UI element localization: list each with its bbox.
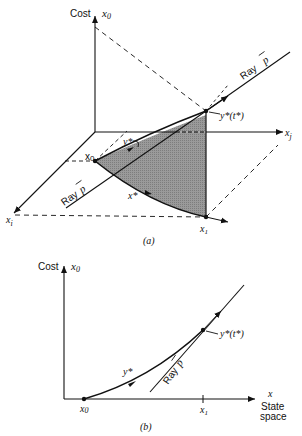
ray-arrow-a [206,96,228,111]
figure-b: Cost x0 x State space x0 x1 y* y*(t*) Ra… [38,260,287,433]
optimal-trajectory-figure: Cost x0 xj xi Ray p Ray p x0 x1 y* x* y*… [0,0,302,436]
x1-tick-label: x1 [199,404,208,417]
svg-text:Ray: Ray [59,188,80,207]
point-x0-label-b: x0 [79,403,88,415]
dashed-guide-bottom [15,215,206,217]
point-endpoint-b [201,328,205,332]
svg-text:p: p [172,356,186,369]
dashed-guide-top [95,27,206,111]
ray-arrow-b [203,311,221,330]
svg-text:p: p [259,53,272,67]
x1-arrow [206,217,228,222]
xj-axis-label: xj [284,127,292,141]
point-x0-label-a: x0 [85,151,95,163]
cost-label-b: Cost [38,261,59,272]
svg-text:Ray: Ray [161,365,180,386]
caption-a: (a) [143,235,155,247]
xi-axis [14,132,95,213]
cost-label-a: Cost [70,8,91,19]
caption-b: (b) [140,421,152,433]
endpoint-label-a: y*(t*) [219,110,245,122]
xstar-label: x* [127,190,137,201]
dashed-guide-right [206,145,278,217]
ray-label-b: Ray p [159,355,186,386]
shaded-reachable-region [95,115,206,217]
ystar-label-a: y* [122,136,132,147]
endpoint-pointer-a [209,112,220,114]
endpoint-pointer-b [206,331,218,334]
xi-axis-label: xi [5,214,13,228]
x-axis-label-b: x [267,388,273,399]
space-label-b: space [260,411,287,422]
ystar-label-b: y* [122,366,132,377]
x0-axis-label-b: x0 [70,260,80,274]
svg-text:Ray: Ray [238,62,259,81]
curve-ystar-b [84,330,203,399]
point-x1-a [204,215,208,219]
point-endpoint-a [204,109,208,113]
point-x0-b [82,397,86,401]
figure-a: Cost x0 xj xi Ray p Ray p x0 x1 y* x* y*… [5,7,292,247]
x0-axis-label-a: x0 [101,7,111,21]
endpoint-label-b: y*(t*) [219,328,245,340]
point-x1-label-a: x1 [199,223,208,236]
